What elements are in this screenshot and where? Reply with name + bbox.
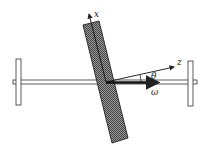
left-end-plate [16, 59, 21, 105]
theta-label: θ [151, 71, 157, 81]
z-axis-label: z [176, 57, 182, 67]
x-axis-label: x [94, 9, 99, 19]
right-end-plate [188, 61, 193, 106]
plate-on-shaft-diagram: x z ω θ [0, 0, 206, 151]
angular-velocity-label: ω [151, 87, 159, 97]
